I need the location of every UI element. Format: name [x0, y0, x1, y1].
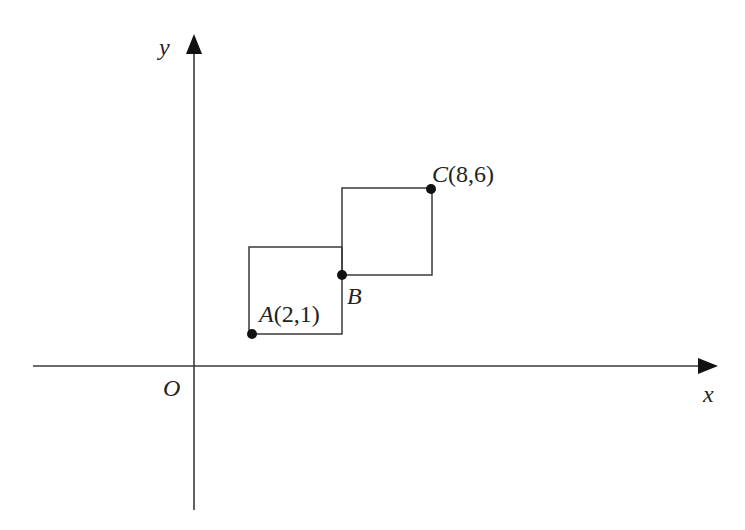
- y-axis-arrow-icon: [186, 34, 202, 54]
- point-a: [247, 329, 257, 339]
- point-c-letter: C: [432, 161, 449, 187]
- point-a-coords: (2,1): [274, 301, 320, 327]
- point-b-label: B: [347, 283, 362, 309]
- x-axis-arrow-icon: [698, 358, 718, 374]
- x-axis-label: x: [702, 381, 714, 407]
- point-a-letter: A: [257, 301, 274, 327]
- point-a-label: A(2,1): [257, 301, 320, 327]
- origin-label: O: [163, 375, 180, 401]
- y-axis-label: y: [157, 34, 170, 60]
- point-b: [337, 270, 347, 280]
- coordinate-diagram: y x O A(2,1) B C(8,6): [0, 0, 745, 530]
- square-upper: [342, 188, 432, 275]
- point-c-label: C(8,6): [432, 161, 494, 187]
- point-c-coords: (8,6): [448, 161, 494, 187]
